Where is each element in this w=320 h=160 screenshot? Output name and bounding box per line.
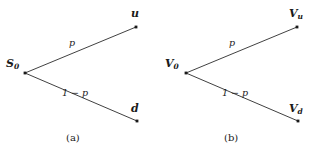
node-dot-root-a [24, 72, 27, 75]
branch-up-line-b [186, 27, 297, 73]
node-dot-up-a [135, 26, 138, 29]
edge-label-one-minus-p-b: 1 − p [222, 88, 248, 98]
node-label-v0-main: V [165, 57, 174, 70]
node-label-u: u [131, 8, 139, 19]
node-label-s0: S0 [6, 58, 19, 69]
node-dot-down-b [297, 120, 300, 123]
node-dot-up-b [296, 26, 299, 29]
node-label-vd-subscript: d [298, 107, 303, 116]
node-label-vd: Vd [289, 103, 303, 114]
panel-a-branches [0, 0, 160, 160]
node-label-d-main: d [131, 102, 139, 115]
node-label-vu: Vu [289, 8, 303, 19]
node-label-s0-subscript: 0 [14, 62, 19, 71]
node-dot-root-b [185, 72, 188, 75]
node-label-vd-main: V [289, 102, 298, 115]
node-label-u-main: u [131, 7, 139, 20]
edge-label-p-a: p [69, 38, 75, 48]
node-label-d: d [131, 103, 139, 114]
panel-caption-a: (a) [66, 133, 80, 143]
panel-b-branches [160, 0, 320, 160]
branch-up-line-a [25, 27, 136, 73]
node-label-vu-subscript: u [298, 12, 303, 21]
edge-label-p-b: p [229, 38, 235, 48]
node-label-v0-subscript: 0 [174, 62, 179, 71]
node-label-s0-main: S [6, 57, 14, 70]
node-dot-down-a [136, 120, 139, 123]
binomial-tree-panel-a: S0 u d p 1 − p (a) [0, 0, 160, 160]
figure-canvas: S0 u d p 1 − p (a) V0 Vu Vd p 1 − p (b) [0, 0, 320, 160]
edge-label-one-minus-p-a: 1 − p [62, 88, 88, 98]
binomial-tree-panel-b: V0 Vu Vd p 1 − p (b) [160, 0, 320, 160]
panel-caption-b: (b) [224, 133, 238, 143]
node-label-vu-main: V [289, 7, 298, 20]
node-label-v0: V0 [165, 58, 179, 69]
